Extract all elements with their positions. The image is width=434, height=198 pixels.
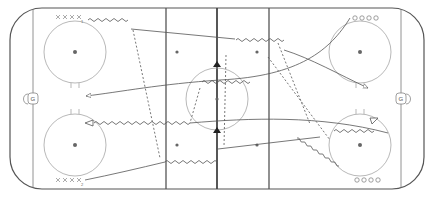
neutral-dot-bottom-left (175, 143, 178, 146)
goalie-right-label: G (399, 96, 404, 102)
hockey-rink-diagram: G G 1 2 (0, 0, 434, 198)
goalie-left-label: G (31, 96, 36, 102)
center-dot (215, 97, 218, 100)
faceoff-dot-bottom-left (73, 143, 77, 147)
faceoff-dot-top-left (73, 50, 77, 54)
neutral-dot-top-right (255, 50, 258, 53)
neutral-dot-top-left (175, 50, 178, 53)
faceoff-dot-bottom-right (358, 143, 362, 147)
faceoff-dot-top-right (358, 50, 362, 54)
